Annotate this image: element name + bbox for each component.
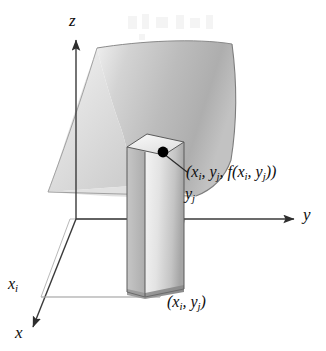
comma-2: , (220, 163, 228, 180)
base-point-label: (xi, yj) (167, 294, 206, 312)
point-fx: x (237, 163, 244, 180)
x-tick-label: xi (8, 276, 18, 294)
axis-label-x: x (15, 324, 23, 341)
x-axis (33, 219, 76, 327)
surface-point-dot (158, 147, 169, 158)
x-tick-subscript: i (15, 282, 18, 294)
scan-ghost-artifact (128, 14, 213, 40)
paren-close: )) (266, 163, 277, 180)
y-tick-subscript: j (192, 192, 195, 204)
axis-label-z: z (69, 12, 76, 29)
surface-integral-diagram: z y x xi yj (xi, yj, f(xi, yj)) (xi, yj) (0, 0, 326, 351)
point-y: y (209, 163, 216, 180)
y-tick-label: yj (185, 186, 195, 204)
volume-column (127, 134, 184, 299)
base-y: y (190, 293, 197, 310)
base-paren-close: ) (201, 293, 206, 310)
axis-label-y: y (303, 206, 311, 223)
comma-3: , (248, 163, 256, 180)
point-fy: y (256, 163, 263, 180)
diagram-canvas (0, 0, 326, 351)
surface-point-label: (xi, yj, f(xi, yj)) (186, 164, 276, 182)
